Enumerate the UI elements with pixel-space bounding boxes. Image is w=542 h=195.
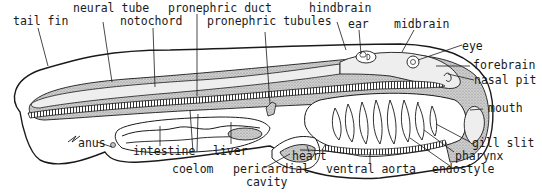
label-eye: eye bbox=[462, 39, 483, 53]
label-ventral-aorta: ventral aorta bbox=[326, 162, 416, 176]
label-cavity: cavity bbox=[246, 175, 288, 189]
label-forebrain: forebrain bbox=[473, 58, 535, 72]
label-coelom: coelom bbox=[172, 162, 214, 176]
label-endostyle: endostyle bbox=[432, 162, 494, 176]
tadpole-anatomy-diagram: tail fin neural tube notochord pronephri… bbox=[0, 0, 542, 195]
label-intestine: intestine bbox=[133, 144, 195, 158]
ear-structure bbox=[356, 51, 376, 63]
label-pericardial: pericardial bbox=[233, 162, 309, 176]
label-liver: liver bbox=[213, 144, 248, 158]
label-neural-tube: neural tube bbox=[73, 1, 149, 15]
label-pronephric-tubules: pronephric tubules bbox=[207, 14, 332, 28]
label-mouth: mouth bbox=[488, 101, 523, 115]
label-anus: anus bbox=[78, 136, 106, 150]
liver-structure bbox=[228, 128, 262, 140]
label-notochord: notochord bbox=[120, 14, 182, 28]
label-midbrain: midbrain bbox=[394, 17, 449, 31]
label-hindbrain: hindbrain bbox=[309, 1, 371, 15]
label-ear: ear bbox=[348, 17, 369, 31]
diagram-canvas: tail fin neural tube notochord pronephri… bbox=[0, 0, 542, 195]
label-gill-slit: gill slit bbox=[472, 136, 534, 150]
label-pronephric-duct: pronephric duct bbox=[168, 1, 272, 15]
label-heart: heart bbox=[292, 149, 327, 163]
label-pharynx: pharynx bbox=[455, 149, 504, 163]
label-nasal-pit: nasal pit bbox=[474, 73, 536, 87]
label-tail-fin: tail fin bbox=[13, 14, 68, 28]
eye-structure bbox=[407, 56, 419, 68]
